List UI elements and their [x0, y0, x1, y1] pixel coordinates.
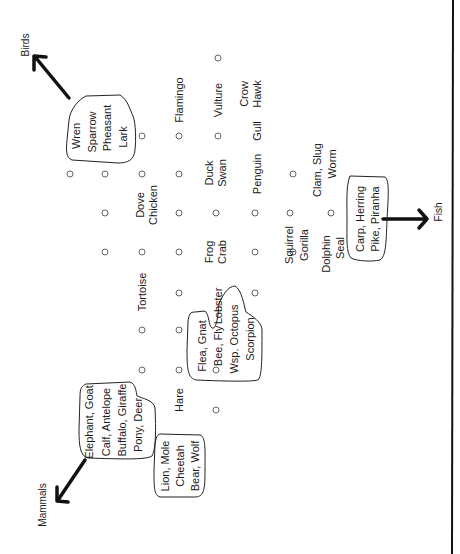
group-item: Wren [70, 123, 82, 149]
animal-label: Gull [251, 121, 263, 141]
grid-dot [213, 367, 219, 373]
animal-label: Tortoise [136, 273, 148, 312]
animal-label: Worm [326, 149, 338, 178]
grid-dot [176, 210, 182, 216]
grid-dot [213, 407, 219, 413]
grid-dot [139, 367, 145, 373]
grid-dot [176, 290, 182, 296]
animal-label: Crow [238, 81, 250, 107]
group-item: Pheasant [101, 105, 113, 151]
group-item: Pike, Piranha [369, 185, 381, 251]
grid-dot [139, 327, 145, 333]
grid-dot [215, 55, 221, 61]
fish-arrow [383, 210, 427, 228]
mammals-label: Mammals [37, 483, 48, 526]
animal-label: Frog [203, 241, 215, 264]
grid-dot [102, 171, 108, 177]
animal-label: Squirrel [283, 226, 295, 264]
grid-dot [139, 133, 145, 139]
grid-dot [290, 171, 296, 177]
group-item: Calf, Antelope [100, 388, 112, 457]
grid-dot [139, 171, 145, 177]
animal-label: Flamingo [173, 77, 185, 122]
animal-label: Duck [203, 160, 215, 186]
grid-dot [287, 210, 293, 216]
group-item: Lark [117, 126, 129, 148]
group-item: Pony, Deer [132, 398, 144, 453]
grid-dot [176, 327, 182, 333]
animal-similarity-diagram: Birds Mammals Fish Wren Sparrow Pheasant… [0, 0, 460, 554]
grid-dot [176, 133, 182, 139]
group-item: Scorpion [244, 317, 256, 360]
group-item: Carp, Herring [354, 186, 366, 252]
grid-dot [176, 171, 182, 177]
group-item: Lion, Mole [159, 441, 171, 492]
grid-dot [102, 249, 108, 255]
grid-dot [252, 249, 258, 255]
grid-dot [102, 210, 108, 216]
grid-dot [215, 133, 221, 139]
group-item: Elephant, Goat [83, 385, 95, 458]
group-item: Flea, Gnat [196, 320, 208, 371]
grid-dot [213, 210, 219, 216]
grid-dot [252, 210, 258, 216]
animal-label: Hare [173, 388, 185, 412]
animal-label: Vulture [212, 83, 224, 117]
grid-dot [252, 290, 258, 296]
animal-label: Crab [216, 240, 228, 264]
mammals-arrow [57, 460, 85, 502]
animal-label: Penguin [251, 154, 263, 194]
group-item: Buffalo, Giraffe [116, 384, 128, 457]
grid-dot [176, 367, 182, 373]
animal-label: Lobster [212, 287, 224, 324]
group-item: Sparrow [86, 111, 98, 152]
animal-label: Seal [334, 237, 346, 259]
frame-border-right [452, 0, 453, 554]
animal-label: Hawk [251, 80, 263, 108]
fish-label: Fish [433, 203, 444, 222]
group-item: Cheetah [174, 445, 186, 487]
animal-label: Dolphin [320, 235, 332, 272]
animal-label: Gorilla [298, 228, 310, 261]
birds-arrow [34, 56, 69, 98]
grid-dot [328, 210, 334, 216]
group-item: Wsp. Octopus [228, 304, 240, 374]
animal-label: Chicken [147, 185, 159, 225]
group-item: Bee, Fly [212, 325, 224, 366]
animal-label: Swan [216, 159, 228, 187]
group-item: Bear, Wolf [189, 440, 201, 491]
birds-label: Birds [20, 34, 31, 57]
animal-label: Dove [134, 192, 146, 218]
grid-dot [67, 171, 73, 177]
grid-dot [139, 249, 145, 255]
grid-dot [176, 249, 182, 255]
animal-label: Clam, Slug [311, 143, 323, 197]
